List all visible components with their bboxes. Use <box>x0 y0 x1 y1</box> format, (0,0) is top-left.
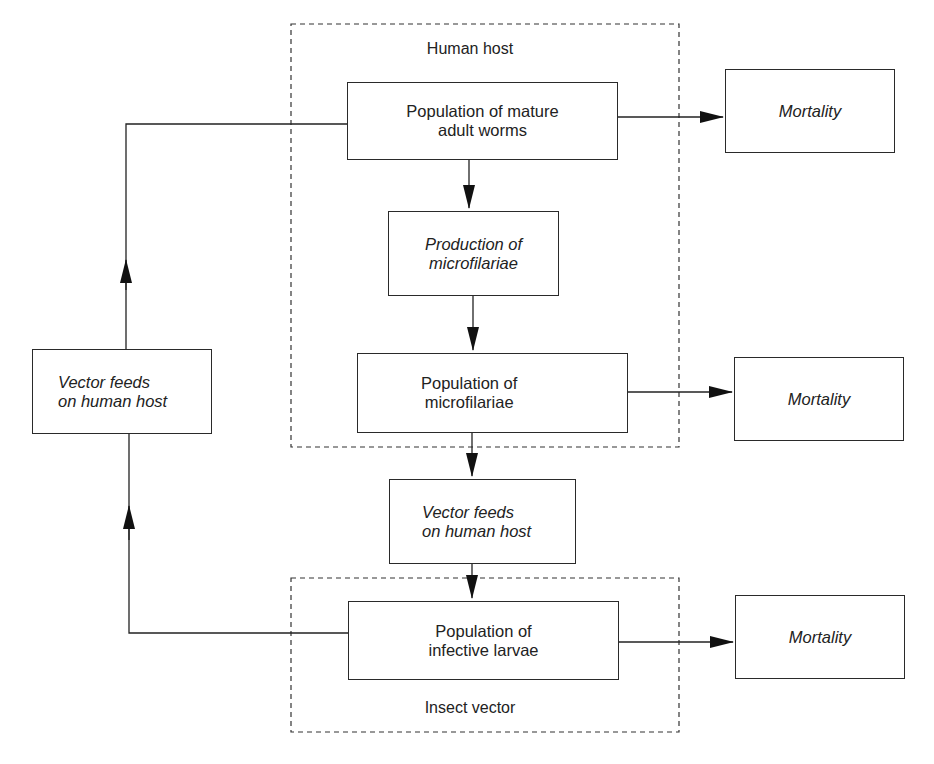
node-mortality-1: Mortality <box>725 69 895 153</box>
node-text: Mortality <box>779 102 841 121</box>
line-larvae-to-left <box>129 433 348 633</box>
node-text: microfilariae <box>425 254 522 273</box>
node-text: Population of mature <box>406 102 558 121</box>
node-text: infective larvae <box>428 641 538 660</box>
node-text: on human host <box>58 392 167 411</box>
node-text: adult worms <box>406 121 558 140</box>
node-text: Population of <box>421 374 517 393</box>
node-mortality-3: Mortality <box>735 595 905 679</box>
node-population-microfilariae: Population ofmicrofilariae <box>357 353 628 433</box>
node-text: Mortality <box>789 628 851 647</box>
insect-vector-label: Insect vector <box>400 699 540 717</box>
node-vector-feeds-center: Vector feedson human host <box>389 479 576 564</box>
node-text: Production of <box>425 235 522 254</box>
node-text: Mortality <box>788 390 850 409</box>
node-text: Vector feeds <box>58 373 167 392</box>
node-mortality-2: Mortality <box>734 357 904 441</box>
node-production-microfilariae: Production ofmicrofilariae <box>388 211 559 296</box>
node-text: Population of <box>428 622 538 641</box>
node-text: Vector feeds <box>422 503 531 522</box>
human-host-label: Human host <box>400 40 540 58</box>
node-adult-worms: Population of matureadult worms <box>347 82 618 160</box>
node-infective-larvae: Population ofinfective larvae <box>348 601 619 680</box>
node-text: microfilariae <box>421 393 517 412</box>
line-left-to-adult <box>126 124 347 349</box>
node-vector-feeds-left: Vector feedson human host <box>32 349 212 434</box>
node-text: on human host <box>422 522 531 541</box>
